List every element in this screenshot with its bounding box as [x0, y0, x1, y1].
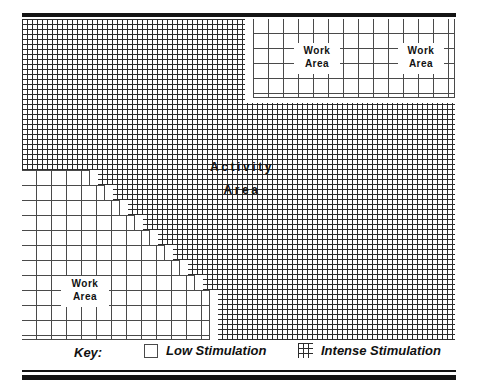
work-area-bottom-left-label: Work Area	[58, 277, 112, 303]
key-title: Key:	[74, 345, 102, 360]
work-area-staircase-row-03	[22, 200, 120, 216]
activity-area-label-line2: Area	[172, 179, 312, 202]
work-area-top-left-label: Work Area	[290, 44, 344, 70]
work-area-staircase-row-06	[22, 245, 165, 261]
work-area-top-left-label-line2: Area	[290, 57, 344, 70]
top-band-gutter-left	[245, 19, 253, 103]
activity-area-label-line1: Activity	[172, 156, 312, 179]
key-entry-low-stimulation-label: Low Stimulation	[166, 343, 266, 358]
work-area-top-right-label-line1: Work	[394, 44, 448, 57]
intense-stimulation-swatch-icon	[298, 343, 313, 358]
work-area-staircase-row-05	[22, 230, 150, 246]
key-entry-intense-stimulation-label: Intense Stimulation	[321, 343, 441, 358]
work-area-bottom-left-label-line1: Work	[58, 277, 112, 290]
work-area-bottom-left-label-line2: Area	[58, 290, 112, 303]
key-entry-intense-stimulation: Intense Stimulation	[298, 343, 441, 358]
key-legend: Key: Low Stimulation Intense Stimulation	[22, 343, 456, 369]
key-entry-low-stimulation: Low Stimulation	[144, 343, 266, 358]
work-area-staircase-row-09	[22, 290, 210, 306]
work-area-top-right-label-line2: Area	[394, 57, 448, 70]
stimulation-plan-figure: Work Area Work Area	[0, 0, 482, 391]
work-area-staircase-row-02	[22, 185, 105, 201]
work-area-top-left-label-line1: Work	[290, 44, 344, 57]
activity-area-label: Activity Area	[172, 156, 312, 203]
work-area-staircase-row-04	[22, 215, 135, 231]
low-stimulation-swatch-icon	[144, 344, 158, 358]
frame-bottom-thick-rule	[22, 375, 456, 380]
frame-top-rule	[22, 13, 456, 17]
work-area-top-right-label: Work Area	[394, 44, 448, 70]
frame-bottom-thin-rule	[22, 370, 456, 372]
work-area-staircase-row-07	[22, 260, 180, 276]
work-area-staircase-row-01	[22, 170, 90, 186]
work-area-staircase-row-10	[22, 305, 210, 340]
plan-area: Work Area Work Area	[22, 19, 455, 340]
